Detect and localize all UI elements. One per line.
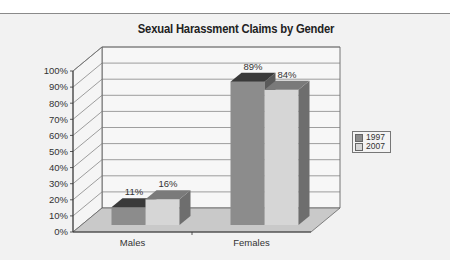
legend-swatch-2007 xyxy=(355,143,363,151)
legend-item-2007: 2007 xyxy=(355,142,388,151)
data-label: 16% xyxy=(158,178,178,189)
legend-label-2007: 2007 xyxy=(366,142,385,151)
y-tick-label: 50% xyxy=(49,146,69,157)
data-label: 89% xyxy=(243,61,263,72)
y-tick-label: 30% xyxy=(49,178,69,189)
bar-side xyxy=(299,81,310,225)
bar-males-2007 xyxy=(146,199,180,225)
y-tick-label: 60% xyxy=(49,130,69,141)
y-tick-label: 40% xyxy=(49,162,69,173)
y-tick-label: 70% xyxy=(49,114,69,125)
bar-males-1997 xyxy=(112,207,146,225)
x-category-label: Females xyxy=(233,237,270,248)
y-tick-label: 80% xyxy=(49,98,69,109)
chart-plot: 0%10%20%30%40%50%60%70%80%90%100%11%16%M… xyxy=(0,0,472,269)
y-tick-label: 10% xyxy=(49,210,69,221)
y-tick-label: 20% xyxy=(49,194,69,205)
chart-legend: 1997 2007 xyxy=(352,131,391,153)
data-label: 11% xyxy=(125,186,144,197)
legend-swatch-1997 xyxy=(355,134,363,142)
y-tick-label: 100% xyxy=(44,65,69,76)
bar-females-1997 xyxy=(231,82,265,225)
bar-females-2007 xyxy=(265,90,299,225)
y-tick-label: 0% xyxy=(54,226,68,237)
y-tick-label: 90% xyxy=(49,81,69,92)
x-category-label: Males xyxy=(120,237,146,248)
data-label: 84% xyxy=(277,69,297,80)
